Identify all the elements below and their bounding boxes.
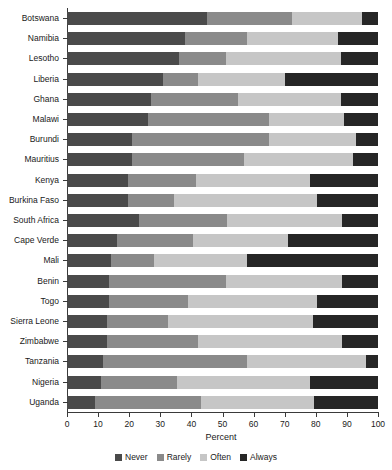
legend-label: Often — [210, 452, 231, 462]
bar-segment-never — [67, 12, 207, 25]
bar-segment-often — [247, 355, 365, 368]
bar-segment-always — [341, 93, 378, 106]
bar-segment-rarely — [132, 133, 269, 146]
bar-segment-never — [67, 335, 107, 348]
x-axis-tick-label: 10 — [93, 419, 102, 429]
bar-segment-never — [67, 214, 139, 227]
bar-row — [67, 214, 378, 227]
category-label: Burkina Faso — [9, 195, 59, 205]
x-axis-tick — [160, 412, 161, 417]
bar-segment-rarely — [179, 52, 226, 65]
bar-segment-always — [317, 194, 378, 207]
y-axis-tick — [63, 382, 68, 383]
legend-swatch-icon — [200, 454, 207, 461]
bar-segment-often — [154, 254, 247, 267]
bar-segment-rarely — [148, 113, 269, 126]
category-label: Tanzania — [25, 356, 59, 366]
bar-segment-often — [196, 174, 310, 187]
bar-segment-often — [168, 315, 313, 328]
bar-segment-always — [338, 32, 378, 45]
x-axis-tick-label: 50 — [218, 419, 227, 429]
bar-row — [67, 113, 378, 126]
bar-segment-always — [342, 335, 378, 348]
bar-row — [67, 396, 378, 409]
bar-segment-often — [226, 275, 343, 288]
legend-item[interactable]: Rarely — [157, 452, 192, 462]
bar-segment-often — [247, 32, 337, 45]
y-axis-tick — [63, 281, 68, 282]
category-label: Lesotho — [29, 53, 59, 63]
category-label: Burundi — [30, 134, 59, 144]
bar-segment-rarely — [185, 32, 247, 45]
category-label: Uganda — [29, 397, 59, 407]
category-label: Malawi — [33, 114, 59, 124]
bar-segment-always — [317, 295, 378, 308]
bar-row — [67, 133, 378, 146]
bar-segment-never — [67, 32, 185, 45]
bar-segment-never — [67, 396, 95, 409]
category-label: South Africa — [13, 215, 59, 225]
bar-segment-often — [174, 194, 317, 207]
bar-row — [67, 376, 378, 389]
bar-segment-often — [227, 214, 342, 227]
bar-segment-never — [67, 113, 148, 126]
bar-segment-often — [269, 113, 344, 126]
bar-segment-often — [188, 295, 317, 308]
legend-item[interactable]: Never — [115, 452, 148, 462]
bar-segment-never — [67, 254, 111, 267]
bar-segment-always — [314, 396, 378, 409]
bar-row — [67, 194, 378, 207]
bar-segment-often — [269, 133, 356, 146]
bar-segment-always — [288, 234, 378, 247]
bar-segment-never — [67, 315, 107, 328]
category-label: Mali — [43, 255, 59, 265]
bar-row — [67, 73, 378, 86]
bar-row — [67, 295, 378, 308]
x-axis-tick-label: 40 — [187, 419, 196, 429]
y-axis-tick — [63, 341, 68, 342]
bar-row — [67, 32, 378, 45]
bar-segment-rarely — [139, 214, 228, 227]
y-axis-tick — [63, 402, 68, 403]
category-label: Mauritius — [25, 154, 59, 164]
legend-swatch-icon — [115, 454, 122, 461]
bar-row — [67, 12, 378, 25]
x-axis-tick-label: 70 — [280, 419, 289, 429]
category-label: Liberia — [33, 74, 59, 84]
legend-label: Never — [125, 452, 148, 462]
bar-row — [67, 234, 378, 247]
y-axis-tick — [63, 301, 68, 302]
legend-label: Always — [250, 452, 277, 462]
legend-swatch-icon — [240, 454, 247, 461]
bar-segment-never — [67, 376, 101, 389]
legend-item[interactable]: Always — [240, 452, 277, 462]
y-axis-tick — [63, 119, 68, 120]
x-axis-tick — [223, 412, 224, 417]
category-label: Namibia — [28, 33, 59, 43]
bar-segment-always — [362, 12, 378, 25]
legend-swatch-icon — [157, 454, 164, 461]
x-axis-tick-label: 0 — [65, 419, 70, 429]
y-axis-tick — [63, 139, 68, 140]
bar-row — [67, 174, 378, 187]
bar-segment-never — [67, 93, 151, 106]
bar-segment-rarely — [109, 295, 188, 308]
x-axis-tick-label: 20 — [124, 419, 133, 429]
bar-segment-always — [285, 73, 378, 86]
bar-segment-rarely — [101, 376, 177, 389]
bar-segment-never — [67, 133, 132, 146]
bar-segment-often — [193, 234, 288, 247]
bar-segment-often — [244, 153, 353, 166]
bar-segment-often — [198, 335, 343, 348]
bar-segment-always — [341, 52, 378, 65]
y-axis-tick — [63, 361, 68, 362]
x-axis-tick — [129, 412, 130, 417]
x-axis-tick — [191, 412, 192, 417]
x-axis-title-text: Percent — [205, 432, 236, 442]
bar-segment-always — [313, 315, 378, 328]
bar-segment-always — [310, 376, 378, 389]
bar-segment-rarely — [103, 355, 248, 368]
x-axis-tick-label: 30 — [156, 419, 165, 429]
bar-row — [67, 93, 378, 106]
legend-item[interactable]: Often — [200, 452, 231, 462]
